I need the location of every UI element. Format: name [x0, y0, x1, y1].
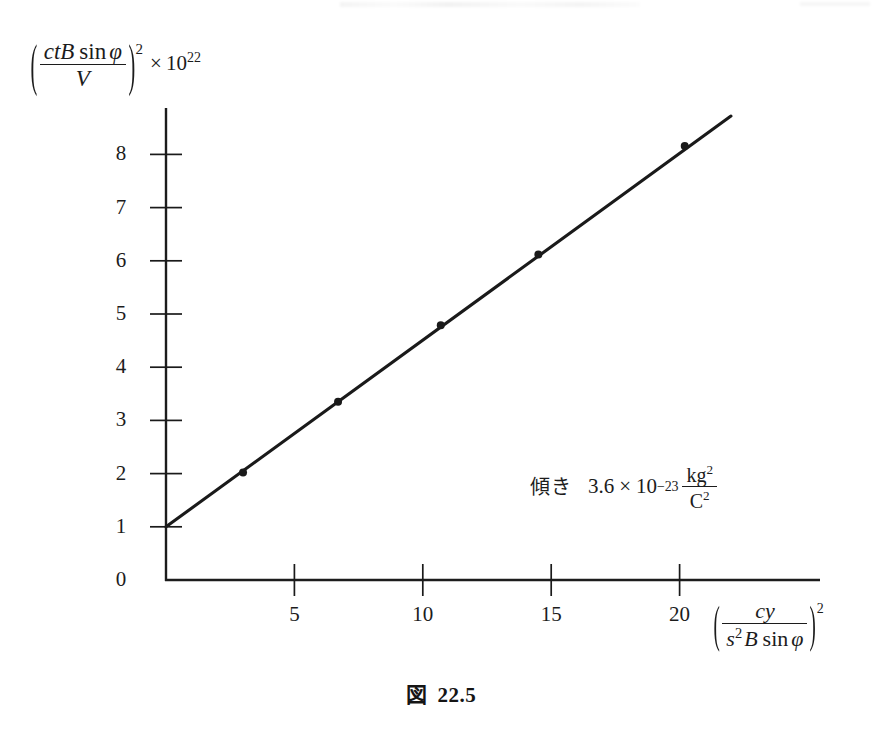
y-tick-label: 8 — [104, 143, 138, 164]
x-label-close-paren: ) — [810, 600, 816, 651]
caption-number: 22.5 — [437, 683, 476, 707]
caption-prefix: 図 — [406, 683, 428, 707]
y-num-c: c — [44, 39, 54, 64]
y-tick-label: 7 — [104, 197, 138, 218]
slope-annotation: 傾き 3.6 × 10−23 kg2 C2 — [530, 463, 719, 510]
x-label-denominator: s2Bsinφ — [722, 623, 807, 650]
x-den-s: s — [726, 626, 735, 651]
slope-label-jp: 傾き — [530, 477, 572, 497]
slope-unit-denominator: C2 — [682, 486, 717, 511]
y-label-numerator: ctBsinφ — [40, 40, 126, 64]
figure-22-5: ( ctBsinφ V )2×1022 ( cy s2Bsinφ )2 傾き 3… — [0, 0, 882, 741]
slope-unit-numerator: kg2 — [682, 463, 717, 486]
y-label-denominator: V — [40, 64, 126, 90]
y-tick-label: 1 — [104, 516, 138, 537]
y-label-times: × — [150, 51, 162, 75]
data-point — [437, 321, 445, 329]
slope-unit-den-exp: 2 — [703, 488, 710, 503]
slope-unit-num-kg: kg — [686, 464, 706, 486]
figure-caption: 図22.5 — [0, 678, 882, 708]
x-label-open-paren: ( — [714, 600, 720, 651]
x-num-y: y — [765, 598, 775, 623]
x-tick-label: 5 — [272, 604, 316, 625]
slope-times-symbol: × — [619, 476, 631, 497]
y-num-phi: φ — [109, 39, 122, 64]
y-label-open-paren: ( — [30, 37, 37, 93]
y-num-B: B — [60, 39, 74, 64]
axes — [165, 108, 820, 581]
x-label-numerator: cy — [722, 600, 807, 623]
data-point — [534, 250, 542, 258]
y-tick-label: 3 — [104, 409, 138, 430]
x-axis-label: ( cy s2Bsinφ )2 — [713, 600, 824, 650]
y-label-exponent: 2 — [136, 41, 144, 57]
x-label-exponent: 2 — [817, 601, 824, 616]
y-tick-label: 0 — [104, 569, 138, 590]
slope-unit-num-exp: 2 — [706, 462, 713, 477]
data-point — [334, 398, 342, 406]
y-num-sin: sin — [79, 39, 106, 64]
y-label-close-paren: ) — [128, 37, 135, 93]
data-point — [681, 142, 689, 150]
y-tick-label: 2 — [104, 463, 138, 484]
slope-exponent: −23 — [657, 480, 678, 494]
x-tick-label: 20 — [658, 604, 702, 625]
x-den-s-exponent: 2 — [735, 625, 742, 641]
data-point — [239, 469, 247, 477]
x-label-fraction: cy s2Bsinφ — [722, 600, 807, 650]
x-num-c: c — [755, 598, 765, 623]
y-label-scale-exponent: 22 — [187, 50, 201, 65]
x-den-B: B — [744, 626, 757, 651]
slope-unit-fraction: kg2 C2 — [682, 463, 717, 510]
y-axis-label: ( ctBsinφ V )2×1022 — [30, 40, 201, 90]
y-tick-label: 5 — [104, 303, 138, 324]
x-tick-label: 10 — [401, 604, 445, 625]
slope-unit-den-c: C — [690, 489, 703, 511]
x-den-sin: sin — [763, 626, 789, 651]
x-den-phi: φ — [791, 626, 803, 651]
y-label-fraction: ctBsinφ V — [40, 40, 126, 90]
slope-base: 10 — [636, 476, 657, 497]
y-tick-label: 4 — [104, 356, 138, 377]
y-tick-label: 6 — [104, 250, 138, 271]
y-label-scale-base: 10 — [166, 51, 187, 75]
slope-coefficient: 3.6 — [588, 476, 614, 497]
x-tick-label: 15 — [529, 604, 573, 625]
